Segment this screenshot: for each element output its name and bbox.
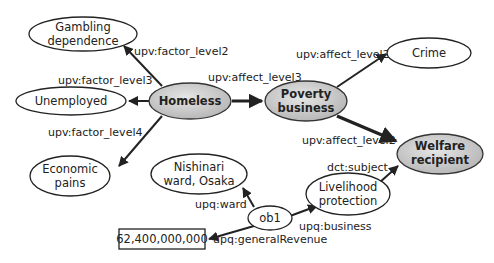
edge-label-factor-level2: upv:factor_level2 xyxy=(134,45,228,58)
edge-ob1-livelihood xyxy=(290,206,317,216)
node-unemployed: Unemployed xyxy=(16,87,126,115)
svg-text:dependence: dependence xyxy=(47,34,118,48)
svg-text:Welfare: Welfare xyxy=(415,139,465,153)
edge-label-upq-general-revenue: upq:generalRevenue xyxy=(213,233,328,246)
edge-label-welfare-affect-level2: upv:affect_level2 xyxy=(302,134,396,147)
node-general-revenue-literal: 62,400,000,000 xyxy=(116,229,207,249)
edge-label-factor-level3: upv:factor_level3 xyxy=(58,74,152,87)
node-welfare-recipient: Welfare recipient xyxy=(397,134,483,174)
svg-text:Homeless: Homeless xyxy=(159,94,222,108)
svg-text:Livelihood: Livelihood xyxy=(319,180,378,194)
edge-label-crime-affect-level2: upv:affect_level2 xyxy=(296,48,390,61)
svg-text:ward, Osaka: ward, Osaka xyxy=(163,174,234,188)
node-ob1: ob1 xyxy=(248,206,292,230)
node-nishinari-ward: Nishinari ward, Osaka xyxy=(151,154,247,194)
edge-homeless-economic xyxy=(119,116,162,166)
node-livelihood-protection: Livelihood protection xyxy=(306,173,390,215)
node-economic-pains: Economic pains xyxy=(30,156,110,196)
svg-text:Unemployed: Unemployed xyxy=(35,94,108,108)
svg-text:Nishinari: Nishinari xyxy=(174,160,225,174)
svg-text:protection: protection xyxy=(319,194,378,208)
svg-text:Poverty: Poverty xyxy=(281,87,332,101)
edge-label-factor-level4: upv:factor_level4 xyxy=(48,126,142,139)
svg-text:recipient: recipient xyxy=(411,153,469,167)
node-gambling-dependence: Gambling dependence xyxy=(29,17,137,51)
svg-text:Crime: Crime xyxy=(412,46,446,60)
svg-text:62,400,000,000: 62,400,000,000 xyxy=(116,232,207,246)
node-poverty-business: Poverty business xyxy=(265,81,347,121)
node-crime: Crime xyxy=(387,38,471,68)
edge-label-upq-business: upq:business xyxy=(299,220,372,233)
edge-label-affect-level3: upv:affect_level3 xyxy=(208,71,302,84)
edge-label-upq-ward: upq:ward xyxy=(195,198,247,211)
svg-text:business: business xyxy=(278,101,335,115)
rdf-diagram: upv:factor_level2 upv:factor_level3 upv:… xyxy=(0,0,494,263)
svg-text:Economic: Economic xyxy=(42,162,98,176)
node-homeless: Homeless xyxy=(149,83,231,119)
svg-text:Gambling: Gambling xyxy=(55,20,110,34)
edge-label-dct-subject: dct:subject xyxy=(327,161,389,174)
svg-text:pains: pains xyxy=(55,176,86,190)
svg-text:ob1: ob1 xyxy=(259,211,281,225)
